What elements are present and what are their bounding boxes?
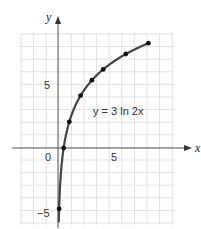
y-axis-label: y (45, 10, 52, 24)
y-tick-5: 5 (44, 79, 50, 91)
data-point (146, 41, 151, 46)
y-axis-arrow-icon (55, 16, 61, 24)
origin-label: 0 (45, 151, 51, 163)
chart-canvas: x y 0 5 5 −5 y = 3 ln 2x (0, 0, 201, 229)
data-point (123, 52, 128, 57)
x-axis-label: x (194, 141, 201, 155)
data-point (101, 67, 106, 72)
x-tick-5: 5 (111, 151, 117, 163)
x-axis-arrow-icon (184, 145, 192, 151)
y-tick-neg5: −5 (37, 207, 50, 219)
data-point (61, 146, 66, 151)
data-point (90, 78, 95, 83)
grid (20, 33, 174, 225)
x-axis (12, 145, 192, 151)
data-point (78, 93, 83, 98)
equation-label: y = 3 ln 2x (93, 105, 144, 117)
data-point (57, 206, 62, 211)
data-point (67, 119, 72, 124)
